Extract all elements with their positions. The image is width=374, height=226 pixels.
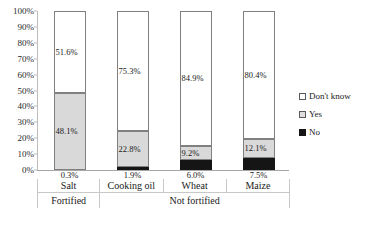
y-tick-label: 30% [18, 118, 35, 127]
stacked-bar[interactable]: 12.1%80.4% [243, 11, 275, 170]
y-tick-label: 50% [18, 86, 35, 95]
bar-value-label: 22.8% [119, 145, 141, 154]
legend-label: Don't know [309, 92, 351, 101]
category-row-groups: FortifiedNot fortified [37, 193, 290, 208]
legend-item[interactable]: No [299, 128, 351, 137]
bar-value-label: 51.6% [56, 48, 78, 57]
bar-value-label: 84.9% [182, 74, 204, 83]
legend-item[interactable]: Yes [299, 110, 351, 119]
group-label-fortified: Fortified [37, 193, 100, 208]
bar-value-label: 9.2% [182, 149, 200, 158]
bar-value-label: 12.1% [245, 144, 267, 153]
category-label-wheat: Wheat [164, 179, 227, 193]
y-tick-label: 20% [18, 134, 35, 143]
y-tick-mark [34, 122, 37, 123]
y-tick-label: 100% [13, 7, 34, 16]
legend-label: Yes [309, 110, 322, 119]
bar-segment-no[interactable] [243, 158, 275, 170]
stacked-bar[interactable]: 48.1%51.6% [54, 11, 86, 170]
bar-slot: 48.1%51.6% [38, 11, 101, 170]
y-tick-label: 70% [18, 54, 35, 63]
group-label-not-fortified: Not fortified [100, 193, 290, 208]
y-tick-mark [34, 58, 37, 59]
category-row-items: SaltCooking oilWheatMaize [37, 179, 290, 193]
bar-value-label: 75.3% [119, 67, 141, 76]
legend-swatch-icon [299, 111, 306, 118]
y-tick-mark [34, 26, 37, 27]
y-tick-mark [34, 106, 37, 107]
plot-area: 0.3%48.1%51.6%1.9%22.8%75.3%6.0%9.2%84.9… [38, 11, 290, 170]
y-tick-mark [34, 138, 37, 139]
bar-segment-no[interactable] [180, 160, 212, 170]
y-tick-label: 40% [18, 102, 35, 111]
bar-slot: 9.2%84.9% [164, 11, 227, 170]
category-label-salt: Salt [37, 179, 100, 193]
bar-value-label: 80.4% [245, 71, 267, 80]
y-tick-mark [34, 42, 37, 43]
chart-legend: Don't knowYesNo [299, 92, 351, 146]
stacked-bar[interactable]: 22.8%75.3% [117, 11, 149, 170]
bar-value-label: 48.1% [56, 127, 78, 136]
legend-swatch-icon [299, 129, 306, 136]
category-label-cooking-oil: Cooking oil [100, 179, 163, 193]
stacked-bar-chart: 100%90%80%70%60%50%40%30%20%10%0% 0.3%48… [0, 0, 374, 226]
y-tick-label: 10% [18, 150, 35, 159]
y-tick-label: 80% [18, 38, 35, 47]
y-axis: 100%90%80%70%60%50%40%30%20%10%0% [0, 0, 36, 226]
y-tick-mark [34, 11, 37, 12]
y-tick-mark [34, 154, 37, 155]
y-tick-label: 90% [18, 22, 35, 31]
y-tick-mark [34, 170, 37, 171]
y-tick-label: 60% [18, 70, 35, 79]
legend-swatch-icon [299, 93, 306, 100]
legend-label: No [309, 128, 320, 137]
legend-item[interactable]: Don't know [299, 92, 351, 101]
category-axis: SaltCooking oilWheatMaize FortifiedNot f… [37, 170, 290, 208]
category-label-maize: Maize [227, 179, 290, 193]
y-tick-mark [34, 90, 37, 91]
bar-slot: 22.8%75.3% [101, 11, 164, 170]
y-tick-label: 0% [22, 166, 34, 175]
bar-slot: 12.1%80.4% [227, 11, 290, 170]
y-tick-mark [34, 74, 37, 75]
stacked-bar[interactable]: 9.2%84.9% [180, 11, 212, 170]
